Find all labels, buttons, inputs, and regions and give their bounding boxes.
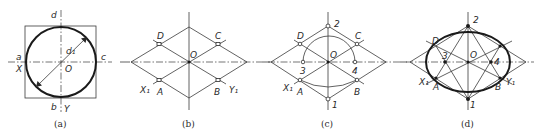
label-x1: X₁ <box>418 77 429 87</box>
label-o: O <box>65 64 72 74</box>
panel-b: D C O X₁ A B Y₁ (b) <box>131 12 262 129</box>
label-1: 1 <box>470 100 476 110</box>
label-d: D <box>157 31 164 41</box>
point-2 <box>466 24 470 28</box>
label-b: B <box>495 82 501 92</box>
center-point <box>188 61 191 64</box>
label-a: A <box>296 87 303 97</box>
point-4 <box>489 60 493 64</box>
label-2: 2 <box>473 15 479 25</box>
label-4: 4 <box>494 57 500 67</box>
label-3: 3 <box>300 66 306 76</box>
caption-d: (d) <box>461 119 474 129</box>
label-d: d <box>51 10 57 20</box>
point-c <box>498 44 501 47</box>
point-a <box>434 76 437 79</box>
label-o: O <box>190 50 197 60</box>
label-o: O <box>330 50 337 60</box>
label-d1: d₁ <box>66 46 76 56</box>
diameter-line <box>36 37 87 87</box>
label-c: C <box>215 31 222 41</box>
point-b <box>355 78 359 82</box>
label-x: X <box>15 64 23 74</box>
label-d: D <box>297 31 304 41</box>
ellipse-construction-diagram: d a c X O d₁ b Y (a) D C O X₁ A B Y₁ (b) <box>0 0 538 134</box>
label-y1: Y₁ <box>506 77 515 87</box>
point-a <box>157 79 161 82</box>
caption-b: (b) <box>182 119 195 129</box>
center-point <box>467 61 470 64</box>
label-a: a <box>16 52 22 62</box>
point-1 <box>326 97 330 101</box>
point-a <box>298 78 302 82</box>
panel-a: d a c X O d₁ b Y (a) <box>8 10 112 129</box>
label-x1: X₁ <box>282 83 293 93</box>
label-2: 2 <box>334 19 340 29</box>
label-b: B <box>354 87 360 97</box>
label-4: 4 <box>352 66 358 76</box>
point-b <box>498 76 501 79</box>
label-x1: X₁ <box>139 85 150 95</box>
label-a: A <box>432 82 439 92</box>
label-b: B <box>214 87 220 97</box>
point-2 <box>326 24 330 28</box>
point-4 <box>353 60 357 64</box>
label-d: D <box>432 36 439 46</box>
point-d <box>298 42 302 46</box>
label-y: Y <box>64 104 71 114</box>
point-c <box>216 43 220 46</box>
caption-c: (c) <box>321 119 333 129</box>
label-y1: Y₁ <box>229 85 238 95</box>
label-c: c <box>101 52 106 62</box>
center-point <box>327 61 330 64</box>
point-d <box>157 43 161 46</box>
label-b: b <box>51 102 57 112</box>
label-c: C <box>355 31 362 41</box>
panel-c: 2 D C O 3 4 X₁ A B 1 (c) <box>268 12 400 129</box>
point-c <box>355 42 359 46</box>
panel-d: 2 D O 3 4 X₁ A B Y₁ 1 (d) <box>406 12 534 129</box>
caption-a: (a) <box>54 119 66 129</box>
label-a: A <box>156 87 163 97</box>
label-3: 3 <box>442 51 448 61</box>
label-o: O <box>470 50 477 60</box>
point-3 <box>301 60 305 64</box>
label-1: 1 <box>332 100 338 110</box>
point-b <box>216 79 220 82</box>
construction-arc-top <box>303 36 355 62</box>
